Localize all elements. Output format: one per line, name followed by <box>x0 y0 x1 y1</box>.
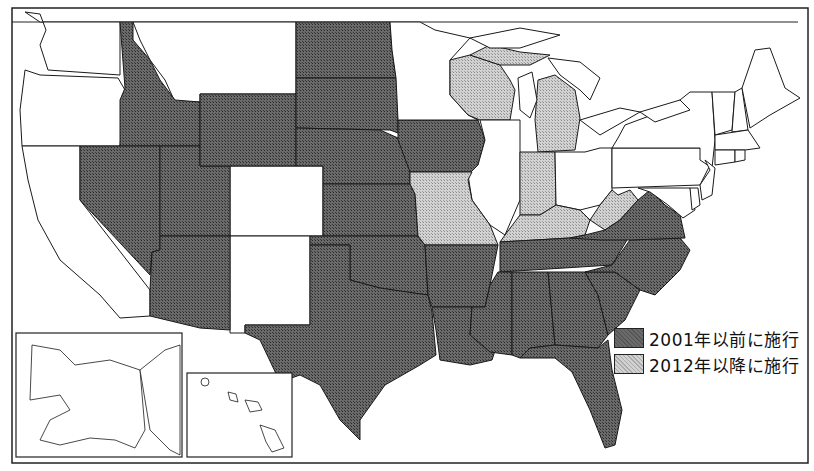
map-canvas <box>0 0 814 471</box>
legend-label: 2012年以降に施行 <box>649 352 799 377</box>
hawaii-inset <box>187 373 292 457</box>
state-vermont <box>712 92 735 135</box>
legend-item-after-2012: 2012年以降に施行 <box>614 351 799 377</box>
state-wyoming <box>200 94 296 166</box>
state-oregon <box>20 70 125 146</box>
legend-swatch-light <box>614 354 644 374</box>
state-new-mexico <box>230 236 310 333</box>
legend-label: 2001年以前に施行 <box>649 326 799 351</box>
us-map: 2001年以前に施行 2012年以降に施行 <box>0 0 814 471</box>
state-alabama <box>512 272 555 358</box>
state-arizona <box>150 236 230 330</box>
legend-swatch-dark <box>614 328 644 348</box>
state-indiana <box>520 152 556 215</box>
state-colorado <box>230 166 323 236</box>
state-south-dakota <box>296 78 398 133</box>
state-iowa <box>398 120 485 172</box>
alaska-inset <box>16 333 182 457</box>
state-pennsylvania <box>612 148 710 188</box>
legend-item-before-2001: 2001年以前に施行 <box>614 325 799 351</box>
state-north-dakota <box>296 22 396 78</box>
state-connecticut <box>715 150 735 165</box>
map-legend: 2001年以前に施行 2012年以降に施行 <box>614 325 799 377</box>
state-rhode-island <box>735 150 745 162</box>
state-kansas <box>323 184 418 236</box>
